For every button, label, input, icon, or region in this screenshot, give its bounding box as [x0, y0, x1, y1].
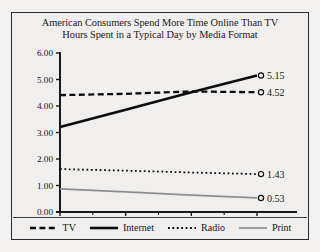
y-axis-tick-label: 3.00 — [37, 128, 53, 138]
endpoint-value-labels: 4.525.151.430.53 — [267, 70, 285, 203]
legend-label: Print — [272, 222, 291, 233]
plot-area: 0.001.002.003.004.005.006.00 20102011201… — [12, 13, 308, 239]
series-line-internet — [60, 76, 257, 127]
legend-label: Radio — [201, 222, 225, 233]
legend-key-tv-icon — [29, 223, 59, 233]
endpoint-label-tv: 4.52 — [267, 87, 285, 98]
legend-label: TV — [63, 222, 76, 233]
series-lines — [60, 76, 257, 198]
y-axis-tick-label: 1.00 — [37, 181, 53, 191]
legend-item-print[interactable]: Print — [238, 222, 291, 233]
endpoint-label-print: 0.53 — [267, 193, 285, 204]
legend-item-tv[interactable]: TV — [29, 222, 76, 233]
chart-legend: TVInternetRadioPrint — [13, 217, 307, 237]
y-axis-tick-label: 0.00 — [37, 207, 53, 217]
endpoint-markers — [258, 73, 263, 201]
legend-item-internet[interactable]: Internet — [89, 222, 154, 233]
legend-item-radio[interactable]: Radio — [167, 222, 225, 233]
legend-key-print-icon — [238, 223, 268, 233]
legend-key-internet-icon — [89, 223, 119, 233]
endpoint-marker-print — [258, 195, 263, 200]
figure-canvas: American Consumers Spend More Time Onlin… — [0, 0, 320, 252]
endpoint-marker-radio — [258, 172, 263, 177]
endpoint-label-radio: 1.43 — [267, 169, 285, 180]
legend-key-radio-icon — [167, 223, 197, 233]
y-axis-tick-label: 4.00 — [37, 101, 53, 111]
y-axis-tick-label: 2.00 — [37, 154, 53, 164]
y-axis: 0.001.002.003.004.005.006.00 — [37, 48, 60, 217]
series-line-print — [60, 189, 257, 198]
endpoint-marker-internet — [258, 73, 263, 78]
y-axis-tick-label: 6.00 — [37, 48, 53, 58]
series-line-radio — [60, 169, 257, 174]
endpoint-label-internet: 5.15 — [267, 70, 285, 81]
endpoint-marker-tv — [258, 90, 263, 95]
chart-frame: American Consumers Spend More Time Onlin… — [11, 12, 309, 240]
y-axis-tick-label: 5.00 — [37, 75, 53, 85]
series-line-tv — [60, 91, 257, 95]
legend-label: Internet — [123, 222, 154, 233]
